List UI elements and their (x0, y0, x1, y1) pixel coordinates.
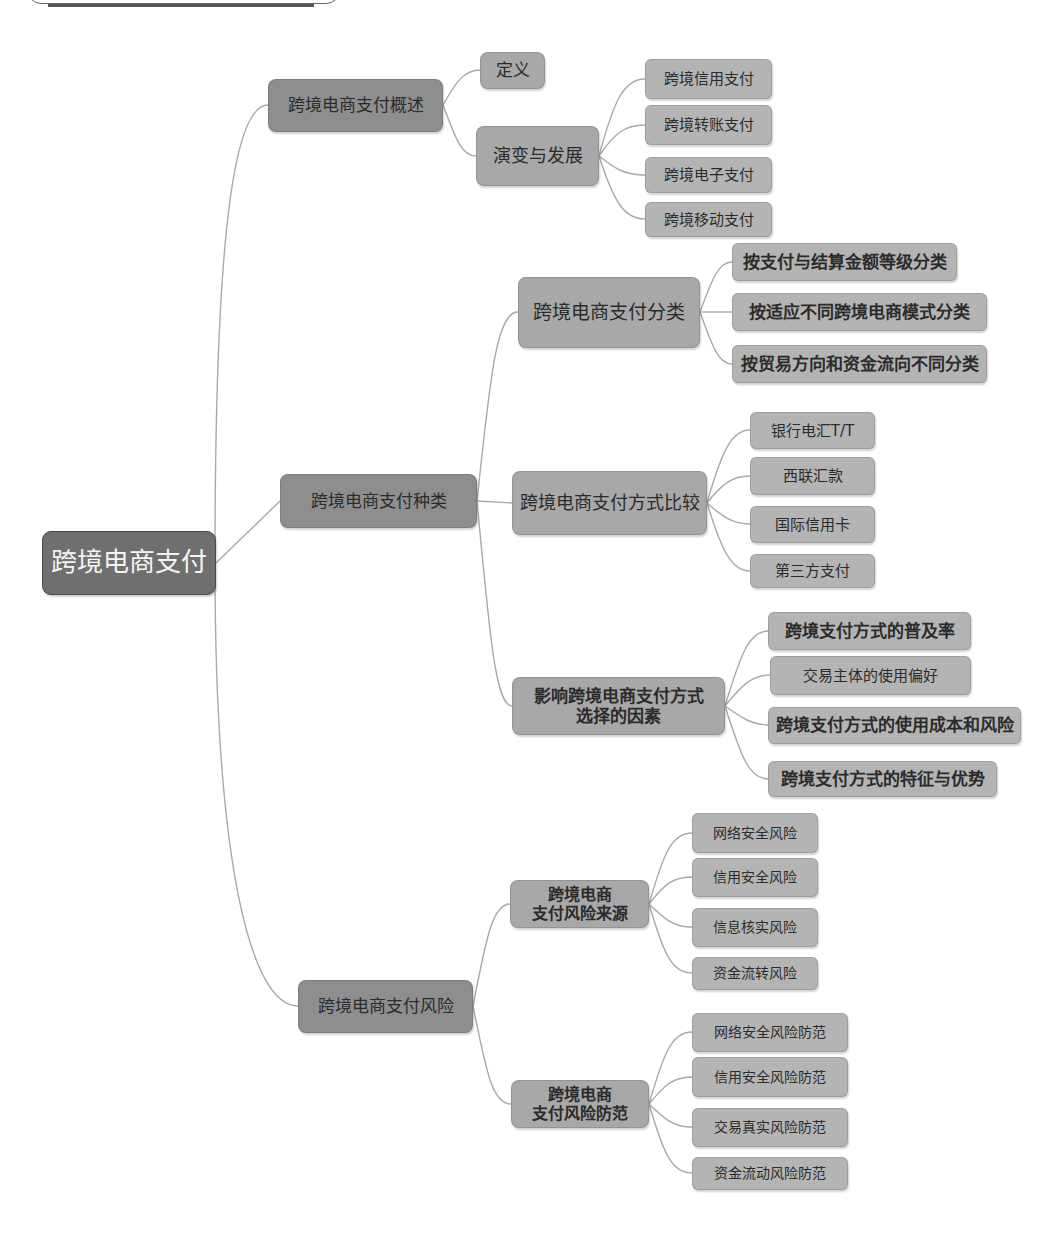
node-classification: 跨境电商支付分类 (518, 277, 700, 348)
leaf-node: 跨境移动支付 (645, 202, 772, 237)
node-risk-prevention: 跨境电商 支付风险防范 (511, 1080, 649, 1128)
leaf-node: 网络安全风险 (692, 813, 818, 853)
leaf-node: 按适应不同跨境电商模式分类 (732, 293, 987, 331)
leaf-node: 信息核实风险 (692, 908, 818, 947)
leaf-node: 跨境信用支付 (645, 59, 772, 99)
root-node: 跨境电商支付 (42, 531, 216, 595)
leaf-node: 资金流动风险防范 (692, 1157, 848, 1190)
leaf-node: 第三方支付 (750, 554, 875, 588)
leaf-node: 银行电汇T/T (750, 412, 875, 449)
leaf-node: 跨境电子支付 (645, 157, 772, 193)
link-root-types (216, 501, 280, 563)
node-risk: 跨境电商支付风险 (298, 980, 473, 1033)
leaf-node: 网络安全风险防范 (692, 1013, 848, 1052)
leaf-node: 国际信用卡 (750, 506, 875, 543)
leaf-node: 交易真实风险防范 (692, 1108, 848, 1147)
node-risk-sources: 跨境电商 支付风险来源 (510, 880, 649, 928)
leaf-node: 跨境支付方式的特征与优势 (768, 761, 997, 797)
leaf-node: 按贸易方向和资金流向不同分类 (732, 345, 987, 383)
leaf-node: 交易主体的使用偏好 (770, 656, 971, 695)
link-root-risk (215, 565, 298, 1006)
leaf-node: 信用安全风险防范 (692, 1057, 848, 1097)
leaf-node: 跨境支付方式的使用成本和风险 (768, 707, 1021, 744)
node-method-comparison: 跨境电商支付方式比较 (512, 471, 707, 535)
node-influencing-factors: 影响跨境电商支付方式 选择的因素 (512, 677, 725, 735)
leaf-node: 信用安全风险 (692, 858, 818, 897)
node-types: 跨境电商支付种类 (280, 474, 477, 528)
link-root-overview (215, 105, 268, 560)
node-overview: 跨境电商支付概述 (268, 79, 443, 132)
node-definition: 定义 (480, 52, 545, 89)
leaf-node: 按支付与结算金额等级分类 (732, 243, 957, 281)
leaf-node: 跨境转账支付 (645, 105, 772, 145)
leaf-node: 跨境支付方式的普及率 (768, 612, 971, 650)
leaf-node: 资金流转风险 (692, 957, 818, 990)
leaf-node: 西联汇款 (750, 457, 875, 495)
node-evolution: 演变与发展 (476, 126, 599, 186)
